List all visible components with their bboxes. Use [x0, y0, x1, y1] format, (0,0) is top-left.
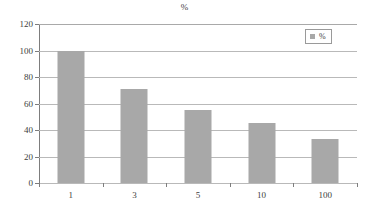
x-axis-tick: [293, 183, 294, 187]
x-axis-tick-label: 3: [132, 190, 137, 201]
bar[interactable]: [57, 51, 84, 184]
x-axis-tick: [357, 183, 358, 187]
y-axis-tick-label: 100: [20, 46, 34, 56]
bar-slot: [166, 24, 230, 183]
y-axis-tick-label: 60: [24, 99, 33, 109]
y-axis-tick-label: 40: [24, 125, 33, 135]
bar-slot: [103, 24, 167, 183]
x-axis-tick-label: 10: [257, 190, 266, 201]
bar[interactable]: [121, 89, 148, 183]
x-axis-tick: [230, 183, 231, 187]
legend-label: %: [319, 32, 326, 41]
bar[interactable]: [248, 123, 275, 183]
y-axis-tick-label: 80: [24, 72, 33, 82]
chart-legend: %: [305, 29, 332, 44]
y-axis-tick-label: 0: [29, 178, 34, 188]
x-axis-tick-label: 100: [318, 190, 332, 201]
plot-area: 020406080100120: [39, 24, 357, 183]
x-axis-tick: [166, 183, 167, 187]
bars-group: [39, 24, 357, 183]
y-axis-tick-label: 20: [24, 152, 33, 162]
bar-slot: [39, 24, 103, 183]
x-axis-tick: [103, 183, 104, 187]
legend-swatch-icon: [310, 34, 315, 39]
bar[interactable]: [312, 139, 339, 183]
chart-title: %: [0, 2, 369, 13]
bar-chart: % 020406080100120 13510100 %: [0, 0, 369, 213]
y-axis-tick-label: 120: [20, 19, 34, 29]
bar[interactable]: [184, 110, 211, 183]
x-axis-tick-label: 1: [69, 190, 74, 201]
bar-slot: [293, 24, 357, 183]
gridline: [39, 183, 357, 184]
x-axis-tick: [39, 183, 40, 187]
x-axis-tick-label: 5: [196, 190, 201, 201]
bar-slot: [230, 24, 294, 183]
